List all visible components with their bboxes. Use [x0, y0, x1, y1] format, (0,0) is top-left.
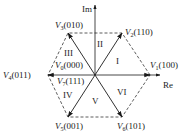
vector-v4-label: V4(011) — [3, 70, 31, 81]
zero-vector-v0-label: V0(000) — [55, 60, 83, 71]
sector-ii-label: II — [97, 39, 103, 49]
sector-v-label: V — [92, 96, 99, 106]
vector-labels: V1(100)V2(110)V3(010)V4(011)V5(001)V6(10… — [3, 20, 178, 132]
sector-iii-label: III — [64, 48, 73, 58]
sector-iv-label: IV — [63, 90, 73, 100]
vector-v5-label: V5(001) — [55, 121, 83, 132]
space-vector-hexagon-svg: V1(100)V2(110)V3(010)V4(011)V5(001)V6(10… — [0, 0, 189, 140]
imag-axis-label: Im — [82, 4, 92, 14]
vector-v6-label: V6(101) — [117, 121, 145, 132]
vector-v3-label: V3(010) — [55, 20, 83, 31]
real-axis-label: Re — [163, 80, 173, 90]
zero-vector-v7-label: V7(111) — [57, 76, 84, 87]
sector-vi-label: VI — [117, 87, 127, 97]
sector-i-label: I — [116, 56, 119, 66]
vector-v2-label: V2(110) — [125, 27, 153, 38]
vector-v1-label: V1(100) — [150, 60, 178, 71]
space-vector-diagram: V1(100)V2(110)V3(010)V4(011)V5(001)V6(10… — [0, 0, 189, 140]
